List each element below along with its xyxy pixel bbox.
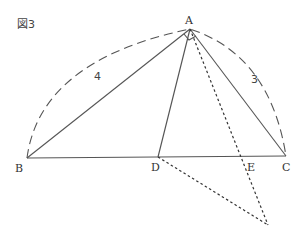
point-label-C: C <box>282 161 290 174</box>
segment-AC <box>190 29 286 156</box>
point-label-A: A <box>184 14 194 27</box>
dashed-arc <box>27 29 286 158</box>
length-label-AB: 4 <box>94 70 101 83</box>
length-label-AC: 3 <box>251 73 258 86</box>
segment-AB <box>27 29 190 158</box>
segment-BC <box>27 156 286 158</box>
dotted-A-to-F <box>190 29 268 225</box>
point-label-D: D <box>151 161 160 174</box>
geometry-diagram: A B C D E 4 3 <box>0 0 308 242</box>
point-label-B: B <box>15 162 23 175</box>
point-label-E: E <box>247 161 255 174</box>
segment-AD <box>158 29 190 157</box>
